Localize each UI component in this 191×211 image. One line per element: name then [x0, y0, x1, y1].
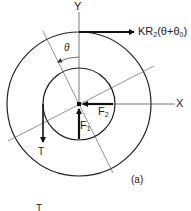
torque-label: T: [38, 147, 44, 157]
force-1-label: F1: [80, 120, 91, 132]
tangential-force-label: KR2(θ+θ0): [138, 26, 187, 38]
partial-next-figure-label: T: [36, 204, 42, 211]
center-pivot: [77, 102, 81, 106]
x-axis-label: X: [176, 98, 183, 109]
theta-angle-label: θ: [64, 43, 69, 53]
y-axis-label: Y: [74, 1, 81, 12]
theta-angle-arc: [58, 57, 79, 62]
figure-caption: (a): [131, 175, 143, 185]
force-2-label: F2: [98, 106, 109, 118]
